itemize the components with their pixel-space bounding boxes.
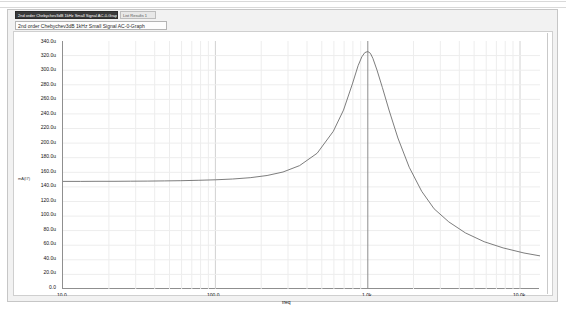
- y-tick-label: 280.0u: [16, 82, 56, 87]
- y-axis-title: mA(I7): [18, 176, 30, 181]
- y-tick-label: 120.0u: [16, 198, 56, 203]
- y-tick-label: 300.0u: [16, 67, 56, 72]
- y-tick-label: 180.0u: [16, 154, 56, 159]
- y-tick-label: 100.0u: [16, 212, 56, 217]
- screenshot-root: 2nd order Chebychev3dB 1kHz Small Signal…: [0, 0, 566, 312]
- plot-panel: 340.0u 320.0u 300.0u 280.0u 260.0u 240.0…: [13, 31, 553, 296]
- y-tick-label: 0.0: [16, 285, 56, 290]
- graph-title-tab[interactable]: 2nd order Chebychev3dB 1kHz Small Signal…: [15, 21, 167, 30]
- tab-list-results[interactable]: List Results 1: [120, 11, 156, 19]
- y-tick-label: 240.0u: [16, 111, 56, 116]
- y-tick-label: 60.0u: [16, 241, 56, 246]
- response-curve: [63, 52, 540, 261]
- y-tick-label: 320.0u: [16, 53, 56, 58]
- y-tick-label: 200.0u: [16, 140, 56, 145]
- top-divider-1: [0, 1, 566, 2]
- y-tick-label: 220.0u: [16, 125, 56, 130]
- y-tick-label: 20.0u: [16, 270, 56, 275]
- y-tick-label: 80.0u: [16, 227, 56, 232]
- plot-area[interactable]: [62, 41, 539, 289]
- tab-strip: 2nd order Chebychev3dB 1kHz Small Signal…: [8, 10, 557, 19]
- y-tick-label: 160.0u: [16, 169, 56, 174]
- minor-gridlines-x: [109, 41, 513, 289]
- graph-window: 2nd order Chebychev3dB 1kHz Small Signal…: [7, 9, 558, 302]
- gridlines-y: [63, 56, 540, 275]
- top-divider-2: [0, 7, 566, 8]
- y-tick-label: 340.0u: [16, 39, 56, 44]
- y-tick-label: 260.0u: [16, 96, 56, 101]
- y-tick-label: 40.0u: [16, 256, 56, 261]
- panel-right-rule: [547, 33, 548, 294]
- chart-svg: [63, 41, 540, 289]
- window-bottom-band: [8, 296, 557, 301]
- y-tick-label: 140.0u: [16, 183, 56, 188]
- tab-graph[interactable]: 2nd order Chebychev3dB 1kHz Small Signal…: [15, 11, 118, 19]
